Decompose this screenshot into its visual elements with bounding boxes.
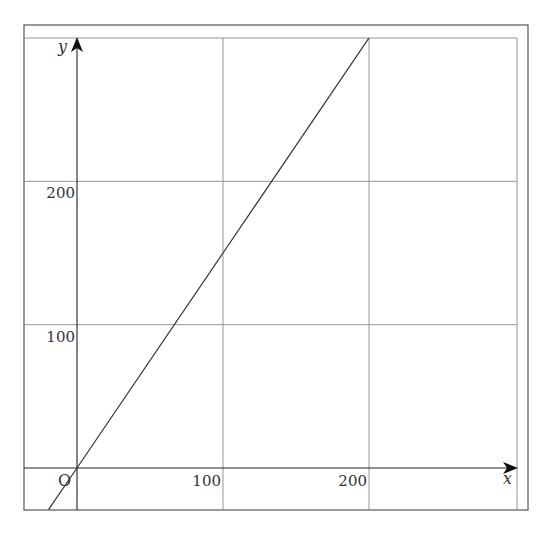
x-tick-labels: 100200 <box>192 472 367 490</box>
outer-frame <box>24 25 528 510</box>
data-line <box>49 38 370 510</box>
origin-label: O <box>58 471 71 490</box>
y-tick-label: 100 <box>46 328 75 346</box>
grid <box>24 38 517 510</box>
y-tick-label: 200 <box>46 184 75 202</box>
y-axis-label: y <box>57 37 68 56</box>
chart-canvas: 100200 100200 x y O <box>0 0 545 541</box>
axes <box>24 48 508 510</box>
x-axis-label: x <box>503 469 512 488</box>
x-tick-label: 200 <box>338 472 367 490</box>
x-tick-label: 100 <box>192 472 221 490</box>
y-tick-labels: 100200 <box>46 184 75 345</box>
